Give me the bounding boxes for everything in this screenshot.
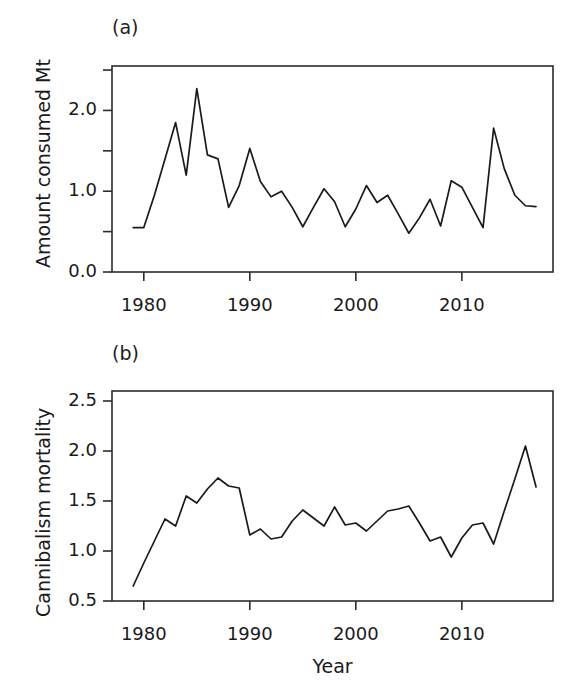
y-tick-label-b-2: 1.5 xyxy=(40,489,97,510)
plot-frame-b xyxy=(112,391,553,601)
x-tick-label-a-3: 2010 xyxy=(422,294,502,315)
x-tick-label-a-2: 2000 xyxy=(316,294,396,315)
figure-container: (a) Amount consumed Mt 0.01.02.019801990… xyxy=(0,0,581,687)
panel-b: (b) Cannibalism mortality Year 0.51.01.5… xyxy=(0,330,581,687)
x-tick-label-b-2: 2000 xyxy=(316,623,396,644)
panel-a-y-axis-title: Amount consumed Mt xyxy=(32,59,54,268)
data-series-a xyxy=(133,89,536,234)
x-tick-label-b-1: 1990 xyxy=(210,623,290,644)
y-tick-label-a-0: 0.0 xyxy=(40,260,97,281)
x-tick-label-b-0: 1980 xyxy=(104,623,184,644)
y-tick-label-b-1: 1.0 xyxy=(40,539,97,560)
plot-frame-a xyxy=(112,66,553,272)
panel-b-x-axis-title: Year xyxy=(112,655,553,677)
x-tick-label-a-1: 1990 xyxy=(210,294,290,315)
y-tick-label-b-4: 2.5 xyxy=(40,389,97,410)
x-tick-label-a-0: 1980 xyxy=(104,294,184,315)
x-tick-label-b-3: 2010 xyxy=(422,623,502,644)
y-tick-label-b-3: 2.0 xyxy=(40,439,97,460)
panel-a-label: (a) xyxy=(112,16,138,38)
y-tick-label-a-2: 2.0 xyxy=(40,98,97,119)
panel-a: (a) Amount consumed Mt 0.01.02.019801990… xyxy=(0,0,581,345)
y-tick-label-a-1: 1.0 xyxy=(40,179,97,200)
y-tick-label-b-0: 0.5 xyxy=(40,589,97,610)
panel-b-label: (b) xyxy=(112,342,139,364)
data-series-b xyxy=(133,446,536,586)
